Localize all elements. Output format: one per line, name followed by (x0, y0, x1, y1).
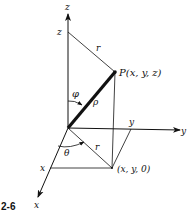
phi-label: φ (72, 88, 79, 99)
rho-label: ρ (92, 97, 99, 107)
z-to-p-line (68, 32, 115, 72)
x-axis-label: x (34, 200, 39, 210)
origin-to-projection (68, 128, 112, 168)
y-tick-to-projection (112, 129, 131, 168)
z-tick-label: z (56, 27, 62, 37)
figure-number: 2-6 (1, 201, 16, 212)
spherical-coordinates-diagram: z z r P(x, y, z) φ ρ y y θ r x (x, y, 0)… (0, 0, 190, 214)
projection-label: (x, y, 0) (117, 164, 151, 174)
z-axis-label: z (64, 2, 70, 12)
phi-arc (68, 101, 82, 105)
point-p-dot (113, 70, 117, 74)
r-upper-label: r (96, 43, 101, 53)
r-lower-label: r (95, 142, 100, 152)
y-axis (68, 128, 180, 130)
theta-label: θ (64, 148, 70, 158)
x-tick-label: x (40, 163, 45, 173)
y-tick-label: y (128, 117, 135, 127)
p-projection-line (112, 72, 115, 168)
point-p-label: P(x, y, z) (118, 67, 162, 78)
projection-dot (111, 167, 113, 169)
y-axis-label: y (180, 126, 187, 136)
rho-vector (68, 72, 115, 128)
